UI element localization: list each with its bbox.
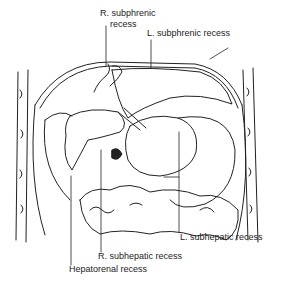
label-l-subphrenic-recess: L. subphrenic recess [147, 28, 230, 38]
left-body-wall [16, 70, 28, 242]
anatomy-diagram: R. subphrenic recess L. subphrenic reces… [0, 0, 281, 288]
right-body-wall [243, 68, 258, 242]
label-l-subhepatic-recess: L. subhepatic recess [180, 232, 263, 242]
leader-lines [71, 26, 228, 265]
label-r-subhepatic-recess: R. subhepatic recess [98, 251, 182, 261]
label-hepatorenal-recess: Hepatorenal recess [69, 264, 147, 274]
label-r-subphrenic-line2: recess [110, 19, 137, 29]
label-r-subphrenic-line1: R. subphrenic [100, 8, 156, 18]
anatomy-drawing [0, 0, 281, 288]
stomach [125, 116, 196, 176]
